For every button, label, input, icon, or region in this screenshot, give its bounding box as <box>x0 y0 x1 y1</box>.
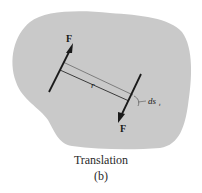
displacement-label: ds <box>148 96 157 106</box>
caption-label: (b) <box>0 169 202 184</box>
force-label-bottom: F <box>120 123 126 134</box>
caption-title: Translation <box>0 153 202 168</box>
distance-label: r <box>91 80 95 90</box>
force-label-top: F <box>66 33 72 44</box>
